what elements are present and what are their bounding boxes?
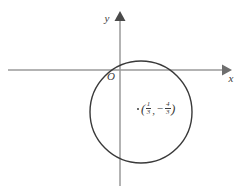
open-paren: ( — [141, 102, 145, 115]
center-point-marker — [137, 108, 139, 110]
x-denominator: 3 — [146, 108, 152, 116]
y-axis-arrowhead — [115, 11, 126, 21]
circle-diagram-figure: y x O ( 1 3 , − 4 3 ) — [0, 0, 242, 192]
minus-sign: − — [157, 103, 164, 114]
coordinate-comma: , — [152, 105, 155, 117]
x-coordinate-fraction: 1 3 — [146, 101, 152, 117]
origin-label: O — [107, 70, 115, 82]
y-denominator: 3 — [165, 108, 171, 116]
y-numerator: 4 — [165, 101, 171, 108]
coordinate-plane-svg: y x O — [0, 0, 242, 192]
close-paren: ) — [171, 102, 175, 115]
center-point-annotation: ( 1 3 , − 4 3 ) — [137, 101, 175, 117]
x-numerator: 1 — [146, 101, 152, 108]
x-axis-label: x — [228, 72, 234, 84]
y-axis-label: y — [104, 12, 110, 24]
y-coordinate-fraction: 4 3 — [165, 101, 171, 117]
